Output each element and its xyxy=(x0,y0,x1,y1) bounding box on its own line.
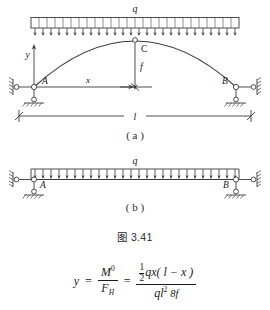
figure-b-svg: q A B xyxy=(0,155,270,203)
crown-label-c: C xyxy=(141,44,147,54)
textbook-page: q y x A B C f l ( a ) xyxy=(0,0,270,310)
load-arrows-b xyxy=(33,169,236,179)
load-arrows-a xyxy=(33,28,236,36)
distributed-load-band-b xyxy=(31,169,239,180)
rise-label-f: f xyxy=(140,61,144,72)
formula-half-den: 2 xyxy=(139,274,144,284)
formula-lhs: y xyxy=(74,274,79,289)
formula-thrust-symbol: F xyxy=(101,281,108,295)
formula-one-half: 1 2 xyxy=(139,263,144,283)
support-left-a xyxy=(9,78,44,107)
load-label-b: q xyxy=(133,155,138,166)
y-axis-label: y xyxy=(25,50,31,60)
formula-term-1: M0 FH xyxy=(98,265,118,297)
support-right-b-fig xyxy=(225,171,262,199)
formula-denominator: ql2 8f xyxy=(151,285,181,300)
formula-thrust-subscript: H xyxy=(109,288,114,297)
figure-a-svg: q y x A B C f l xyxy=(0,0,270,128)
formula-den-sub: 8f xyxy=(170,288,178,299)
crown-hinge xyxy=(133,38,138,43)
formula-moment-superscript: 0 xyxy=(111,264,115,273)
figure-a-arch-diagram: q y x A B C f l xyxy=(0,0,270,128)
formula-den-superscript: 2 xyxy=(164,285,168,294)
support-a-label: A xyxy=(41,76,48,86)
distributed-load-band-a xyxy=(31,18,239,29)
formula-numerator: 1 2 qx( l − x ) xyxy=(136,263,196,284)
formula-half-num: 1 xyxy=(139,263,144,273)
support-b-label: B xyxy=(222,76,228,86)
formula-numerator-rest: qx( l − x ) xyxy=(145,265,193,279)
x-axis-label: x xyxy=(85,75,90,85)
y-axis xyxy=(32,44,37,87)
figure-a-sublabel: ( a ) xyxy=(0,129,270,141)
load-label-a: q xyxy=(133,3,138,14)
formula-equals-1: = xyxy=(84,274,93,289)
formula-equals-2: = xyxy=(123,274,132,289)
x-axis xyxy=(34,85,134,90)
support-b-label-b: B xyxy=(223,180,229,190)
span-label-l: l xyxy=(134,111,137,122)
support-left-b-fig xyxy=(9,171,44,199)
figure-caption: 图 3.41 xyxy=(0,229,270,244)
formula-block: y = M0 FH = 1 2 qx xyxy=(0,255,270,310)
formula-den-main: ql xyxy=(154,286,163,300)
formula-moment-symbol: M xyxy=(101,265,111,279)
formula-term-2: 1 2 qx( l − x ) ql2 8f xyxy=(136,263,196,300)
support-a-label-b: A xyxy=(39,180,46,190)
figure-b-sublabel: ( b ) xyxy=(0,201,270,213)
figure-b-beam-diagram: q A B xyxy=(0,155,270,203)
